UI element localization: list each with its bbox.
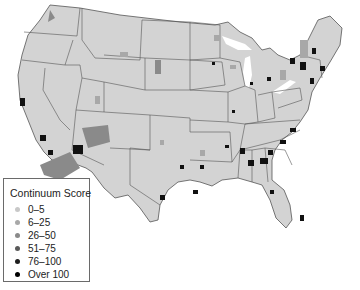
legend: Continuum Score 0–5 6–25 26–50 51–75 76–… — [3, 178, 90, 282]
legend-swatch-icon — [15, 246, 20, 251]
legend-swatch-icon — [15, 233, 20, 238]
legend-item: 6–25 — [15, 216, 89, 229]
legend-swatch-icon — [15, 259, 20, 264]
legend-swatch-icon — [15, 207, 20, 212]
legend-item: 76–100 — [15, 255, 89, 268]
legend-swatch-icon — [15, 220, 20, 225]
legend-label: Over 100 — [28, 269, 69, 280]
legend-item: Over 100 — [15, 268, 89, 281]
legend-item: 26–50 — [15, 229, 89, 242]
legend-item: 51–75 — [15, 242, 89, 255]
legend-label: 51–75 — [28, 243, 56, 254]
legend-item: 0–5 — [15, 203, 89, 216]
legend-label: 6–25 — [28, 217, 50, 228]
legend-list: 0–5 6–25 26–50 51–75 76–100 Over 100 — [4, 203, 89, 281]
legend-label: 76–100 — [28, 256, 61, 267]
legend-swatch-icon — [15, 272, 20, 277]
legend-title: Continuum Score — [10, 187, 89, 199]
legend-label: 26–50 — [28, 230, 56, 241]
legend-label: 0–5 — [28, 204, 45, 215]
